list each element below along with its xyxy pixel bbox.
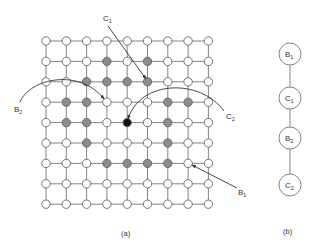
grid-node-white bbox=[62, 57, 70, 65]
grid-node-white bbox=[42, 159, 50, 167]
chain-node-b1: B1 bbox=[279, 43, 301, 65]
grid-node-white bbox=[123, 37, 131, 45]
grid-node-white bbox=[184, 37, 192, 45]
grid-node-white bbox=[123, 139, 131, 147]
grid-node-white bbox=[123, 180, 131, 188]
grid-node-white bbox=[42, 37, 50, 45]
grid-node-white bbox=[62, 180, 70, 188]
grid-node-white bbox=[103, 180, 111, 188]
grid-node-gray bbox=[103, 159, 111, 167]
label-c2: C2 bbox=[226, 112, 235, 122]
grid-node-white bbox=[103, 139, 111, 147]
grid-node-gray bbox=[62, 118, 70, 126]
grid-node-white bbox=[62, 139, 70, 147]
chain-node-c1: C1 bbox=[279, 87, 301, 109]
grid-node-white bbox=[103, 118, 111, 126]
grid-node-white bbox=[62, 78, 70, 86]
label-b1: B1 bbox=[238, 188, 246, 198]
grid-node-white bbox=[103, 98, 111, 106]
grid-node-white bbox=[62, 159, 70, 167]
grid-node-white bbox=[184, 200, 192, 208]
grid-node-gray bbox=[123, 78, 131, 86]
grid-node-white bbox=[143, 139, 151, 147]
grid-node-gray bbox=[164, 139, 172, 147]
grid-node-white bbox=[164, 200, 172, 208]
grid-node-white bbox=[143, 180, 151, 188]
grid-node-white bbox=[82, 37, 90, 45]
grid-node-gray bbox=[164, 159, 172, 167]
grid-node-white bbox=[123, 98, 131, 106]
chain-node-b2: B2 bbox=[279, 127, 301, 149]
grid-node-white bbox=[123, 57, 131, 65]
caption-b: (b) bbox=[283, 227, 293, 236]
grid-node-white bbox=[204, 200, 212, 208]
grid-node-gray bbox=[143, 57, 151, 65]
grid-node-white bbox=[204, 159, 212, 167]
grid-node-white bbox=[204, 98, 212, 106]
grid-node-white bbox=[184, 159, 192, 167]
grid-node-gray bbox=[103, 78, 111, 86]
figure-canvas: C1 B2 C2 B1 (a) B1 C1 B2 C2 (b) bbox=[0, 0, 318, 249]
grid-node-white bbox=[204, 57, 212, 65]
grid-node-white bbox=[143, 98, 151, 106]
grid-node-white bbox=[164, 57, 172, 65]
panel-a-grid-graph: C1 B2 C2 B1 (a) bbox=[14, 14, 246, 238]
grid-node-white bbox=[204, 139, 212, 147]
grid-node-white bbox=[184, 78, 192, 86]
grid-node-black bbox=[123, 118, 131, 126]
grid-node-white bbox=[184, 180, 192, 188]
grid-node-white bbox=[42, 139, 50, 147]
chain-node-c2: C2 bbox=[279, 174, 301, 196]
grid-node-white bbox=[42, 57, 50, 65]
grid-node-white bbox=[143, 200, 151, 208]
grid-node-white bbox=[82, 159, 90, 167]
grid-node-white bbox=[42, 200, 50, 208]
grid-node-gray bbox=[143, 78, 151, 86]
grid-node-gray bbox=[82, 118, 90, 126]
caption-a: (a) bbox=[121, 229, 131, 238]
grid-node-white bbox=[184, 118, 192, 126]
grid-node-white bbox=[164, 37, 172, 45]
arrow-b1 bbox=[192, 165, 237, 188]
grid-node-white bbox=[42, 118, 50, 126]
grid-node-white bbox=[103, 37, 111, 45]
grid-node-white bbox=[62, 37, 70, 45]
grid-node-white bbox=[82, 200, 90, 208]
grid-nodes bbox=[42, 37, 213, 209]
grid-node-white bbox=[184, 57, 192, 65]
grid-node-white bbox=[82, 180, 90, 188]
grid-node-white bbox=[204, 37, 212, 45]
grid-node-white bbox=[103, 200, 111, 208]
grid-node-white bbox=[42, 180, 50, 188]
label-b2: B2 bbox=[14, 105, 22, 115]
grid-node-gray bbox=[143, 159, 151, 167]
grid-node-white bbox=[204, 118, 212, 126]
grid-node-white bbox=[143, 118, 151, 126]
grid-node-gray bbox=[82, 139, 90, 147]
grid-node-white bbox=[82, 57, 90, 65]
label-c1: C1 bbox=[103, 14, 112, 24]
grid-node-white bbox=[204, 78, 212, 86]
grid-node-gray bbox=[184, 98, 192, 106]
grid-node-white bbox=[42, 98, 50, 106]
grid-node-gray bbox=[164, 118, 172, 126]
grid-node-white bbox=[204, 180, 212, 188]
grid-node-white bbox=[184, 139, 192, 147]
grid-node-gray bbox=[103, 57, 111, 65]
grid-node-white bbox=[143, 37, 151, 45]
panel-b-chain-graph: B1 C1 B2 C2 (b) bbox=[279, 43, 301, 236]
grid-node-gray bbox=[123, 159, 131, 167]
grid-node-white bbox=[164, 180, 172, 188]
grid-node-gray bbox=[62, 98, 70, 106]
grid-node-white bbox=[62, 200, 70, 208]
grid-node-white bbox=[164, 78, 172, 86]
grid-node-white bbox=[123, 200, 131, 208]
grid-node-gray bbox=[164, 98, 172, 106]
grid-node-gray bbox=[82, 98, 90, 106]
